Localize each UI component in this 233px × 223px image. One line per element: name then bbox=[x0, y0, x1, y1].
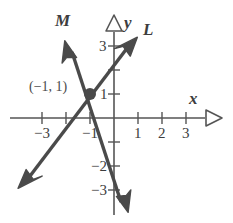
intersection-point-label: (−1, 1) bbox=[29, 80, 67, 94]
x-axis-label: x bbox=[189, 90, 198, 107]
graph-canvas bbox=[0, 0, 233, 223]
x-tick-label--1: −1 bbox=[82, 126, 98, 141]
x-tick-label-1: 1 bbox=[134, 126, 142, 141]
y-axis-arrowhead-icon bbox=[106, 15, 122, 31]
y-tick-label-3: 3 bbox=[99, 39, 107, 54]
line-L-arrowhead-up-icon bbox=[114, 33, 138, 57]
x-axis-arrowhead-icon bbox=[206, 110, 222, 126]
line-L-segment bbox=[27, 43, 131, 180]
y-tick-label-1: 1 bbox=[100, 87, 108, 102]
line-L-label: L bbox=[143, 21, 153, 38]
line-L-arrowhead-down-icon bbox=[18, 169, 43, 193]
y-tick-label--2: −2 bbox=[91, 159, 107, 174]
y-axis-label: y bbox=[124, 14, 132, 31]
intersection-point-dot bbox=[84, 88, 96, 100]
line-M-label: M bbox=[55, 12, 70, 29]
x-tick-label--3: −3 bbox=[34, 126, 50, 141]
coordinate-plane-figure: −3 −1 1 2 3 3 1 −2 −3 x y M L (−1, 1) bbox=[0, 0, 233, 223]
line-L bbox=[18, 33, 137, 193]
x-tick-label-2: 2 bbox=[158, 126, 166, 141]
x-tick-label-3: 3 bbox=[182, 126, 190, 141]
y-tick-label--3: −3 bbox=[91, 183, 107, 198]
